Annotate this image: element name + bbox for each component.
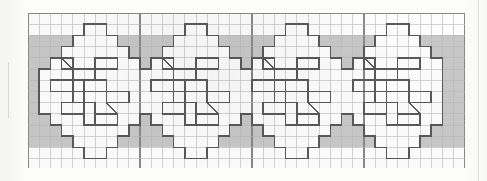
motif-cell [398,136,409,147]
motif-cell [73,125,84,136]
motif-cell [297,114,308,125]
motif-cell [330,80,341,91]
motif-cell [174,125,185,136]
motif-cell [286,80,297,91]
motif-cell [330,58,341,69]
motif-cell [398,103,409,114]
motif-cell [420,114,431,125]
motif-cell [62,47,73,58]
motif-cell [230,103,241,114]
motif-cell [274,80,285,91]
motif-cell [263,69,274,80]
motif-cell [174,58,185,69]
motif-cell [207,35,218,46]
motif-cell [95,24,106,35]
motif-cell [375,91,386,102]
motif-cell [106,91,117,102]
motif-cell [207,91,218,102]
motif-cell [174,114,185,125]
motif-cell [375,69,386,80]
motif-cell [50,80,61,91]
motif-cell [62,114,73,125]
motif-cell [409,47,420,58]
chart-plate [28,13,465,168]
motif-cell [151,58,162,69]
motif-cell [39,80,50,91]
motif-cell [196,69,207,80]
motif-cell [330,91,341,102]
motif-cell [375,47,386,58]
motif-cell [353,58,364,69]
motif-cell [297,35,308,46]
motif-cell [252,58,263,69]
motif-cell [118,80,129,91]
motif-cell [342,80,353,91]
motif-cell [106,114,117,125]
motif-cell [398,125,409,136]
motif-cell [84,24,95,35]
motif-cell [50,58,61,69]
motif-cell [73,47,84,58]
motif-cell [319,125,330,136]
motif-cell [297,69,308,80]
motif-cell [364,91,375,102]
motif-cell [62,91,73,102]
motif-cell [151,80,162,91]
motif-cell [207,125,218,136]
motif-cell [297,24,308,35]
motif-cell [241,80,252,91]
motif-cell [274,103,285,114]
motif-cell [174,35,185,46]
motif-cell [84,35,95,46]
motif-cell [319,69,330,80]
motif-cell [431,80,442,91]
motif-cell [95,103,106,114]
motif-cell [409,136,420,147]
motif-cell [118,125,129,136]
motif-cell [106,47,117,58]
motif-cell [297,91,308,102]
motif-cell [106,125,117,136]
motif-cell [50,114,61,125]
motif-cell [151,103,162,114]
motif-cell [185,35,196,46]
motif-cell [386,103,397,114]
motif-cell [151,91,162,102]
motif-cell [252,69,263,80]
motif-cell [375,136,386,147]
motif-cell [364,80,375,91]
motif-cell [95,147,106,158]
motif-cell [95,69,106,80]
motif-cell [252,114,263,125]
motif-cell [375,125,386,136]
motif-cell [274,58,285,69]
motif-cell [319,114,330,125]
motif-cell [196,35,207,46]
motif-cell [196,147,207,158]
motif-cell [286,24,297,35]
motif-cell [95,47,106,58]
motif-cell [84,147,95,158]
motif-cell [196,125,207,136]
motif-cell [230,114,241,125]
motif-cell [386,24,397,35]
motif-cell [263,125,274,136]
motif-cell [398,47,409,58]
motif-cell [62,80,73,91]
motif-cell [84,125,95,136]
motif-cell [50,69,61,80]
motif-cell [398,80,409,91]
motif-cell [308,91,319,102]
motif-cell [241,69,252,80]
pattern-chart-svg [28,13,465,168]
motif-cell [386,147,397,158]
motif-cell [274,47,285,58]
motif-cell [398,69,409,80]
motif-cell [218,80,229,91]
motif-cell [252,91,263,102]
motif-cell [95,136,106,147]
motif-cell [286,147,297,158]
motif-cell [218,103,229,114]
motif-cell [129,114,140,125]
motif-cell [106,80,117,91]
